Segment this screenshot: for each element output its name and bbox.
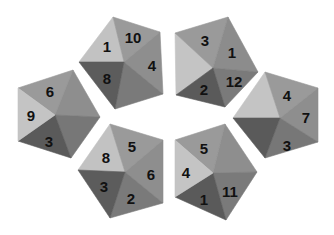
diagram-canvas: 11048311226394738562351114	[0, 0, 334, 235]
facet-label: 2	[200, 81, 208, 98]
facet-label: 4	[182, 164, 191, 181]
facet-label: 7	[302, 109, 310, 126]
facet-label: 1	[228, 44, 236, 61]
pentagon-bottom-left: 85623	[78, 124, 163, 218]
facet-label: 9	[27, 107, 35, 124]
pentagon-left: 639	[18, 70, 100, 158]
facet-label: 12	[226, 73, 243, 90]
pentagon-top-right: 31122	[175, 17, 258, 107]
facet-label: 3	[283, 137, 291, 154]
facet-label: 6	[147, 166, 155, 183]
facet-label: 1	[200, 191, 208, 208]
facet-label: 4	[148, 57, 157, 74]
facet-label: 2	[127, 190, 135, 207]
facet-label: 4	[283, 87, 292, 104]
pyramids-diagram: 11048311226394738562351114	[0, 0, 334, 235]
pentagon-top-left: 11048	[79, 17, 163, 109]
facet-label: 5	[200, 140, 208, 157]
facet-label: 8	[102, 149, 110, 166]
facet-label: 10	[125, 29, 142, 46]
facet-label: 3	[100, 178, 108, 195]
facet-label: 3	[45, 133, 53, 150]
facet-label: 8	[103, 70, 111, 87]
facet-label: 1	[103, 38, 111, 55]
facet-label: 5	[128, 138, 136, 155]
pentagon-bottom-right: 51114	[175, 124, 257, 220]
facet-label: 11	[222, 183, 238, 200]
facet-label: 3	[201, 32, 209, 49]
facet-label: 6	[46, 83, 54, 100]
